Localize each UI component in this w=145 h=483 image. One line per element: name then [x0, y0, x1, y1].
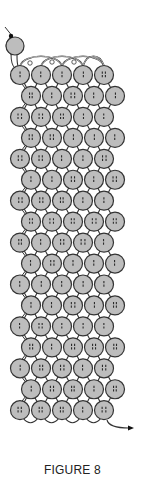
- bead: [22, 170, 41, 189]
- bead: [74, 107, 93, 126]
- bead: [95, 149, 114, 168]
- bead: [85, 170, 104, 189]
- bead: [64, 170, 83, 189]
- bead: [64, 212, 83, 231]
- bead: [95, 401, 114, 420]
- bead: [53, 317, 72, 336]
- bead: [85, 380, 104, 399]
- bead: [95, 317, 114, 336]
- top-thread-loops: [20, 56, 104, 66]
- figure-caption: FIGURE 8: [0, 463, 145, 477]
- bead: [106, 170, 125, 189]
- bead: [22, 296, 41, 315]
- bead: [106, 296, 125, 315]
- bead: [106, 254, 125, 273]
- bead: [11, 107, 30, 126]
- bead: [32, 149, 51, 168]
- bead: [53, 359, 72, 378]
- bead: [74, 66, 93, 85]
- bead: [11, 149, 30, 168]
- bead: [43, 338, 62, 357]
- bead: [74, 401, 93, 420]
- bead: [32, 275, 51, 294]
- bead: [95, 66, 114, 85]
- bead: [64, 86, 83, 105]
- bead: [53, 191, 72, 210]
- bead: [106, 338, 125, 357]
- bead: [22, 380, 41, 399]
- bead: [22, 86, 41, 105]
- bead: [64, 338, 83, 357]
- bead: [43, 254, 62, 273]
- bead: [32, 233, 51, 252]
- bead: [11, 401, 30, 420]
- bead: [22, 212, 41, 231]
- bead: [53, 401, 72, 420]
- bead: [64, 254, 83, 273]
- bead: [53, 275, 72, 294]
- bead: [43, 86, 62, 105]
- bead: [22, 128, 41, 147]
- bead: [74, 317, 93, 336]
- bead: [85, 128, 104, 147]
- bead: [95, 275, 114, 294]
- bead: [64, 380, 83, 399]
- bead: [43, 170, 62, 189]
- bead: [32, 66, 51, 85]
- bead: [95, 359, 114, 378]
- bead: [74, 275, 93, 294]
- bead: [106, 86, 125, 105]
- bead: [85, 254, 104, 273]
- bead: [43, 128, 62, 147]
- bead: [53, 107, 72, 126]
- bead: [106, 128, 125, 147]
- bead: [32, 401, 51, 420]
- bead: [53, 149, 72, 168]
- bead: [11, 233, 30, 252]
- bead: [22, 254, 41, 273]
- bead: [95, 233, 114, 252]
- bead-grid: [11, 66, 125, 420]
- bead: [64, 296, 83, 315]
- bead: [32, 107, 51, 126]
- bead: [64, 128, 83, 147]
- bead: [22, 338, 41, 357]
- bead: [43, 296, 62, 315]
- bead: [106, 380, 125, 399]
- bead: [85, 338, 104, 357]
- bead-stitch-diagram: [0, 0, 145, 483]
- bead: [95, 191, 114, 210]
- bead: [43, 380, 62, 399]
- bead: [11, 191, 30, 210]
- bead: [74, 191, 93, 210]
- bead: [106, 212, 125, 231]
- arrow-exit-icon: [107, 420, 134, 431]
- bead: [11, 66, 30, 85]
- needle-start-icon: [5, 27, 13, 38]
- bead: [74, 359, 93, 378]
- bead: [95, 107, 114, 126]
- bead: [85, 86, 104, 105]
- bead: [74, 233, 93, 252]
- bead: [53, 66, 72, 85]
- bead: [85, 212, 104, 231]
- bead: [11, 317, 30, 336]
- bead: [32, 317, 51, 336]
- bead: [32, 191, 51, 210]
- bead: [32, 359, 51, 378]
- bead: [74, 149, 93, 168]
- bead: [43, 212, 62, 231]
- bead: [85, 296, 104, 315]
- bead: [53, 233, 72, 252]
- bead: [11, 359, 30, 378]
- bead: [11, 275, 30, 294]
